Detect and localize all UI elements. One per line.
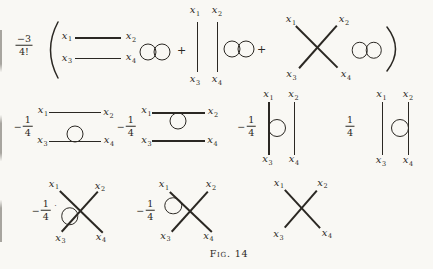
propagator-line [197, 22, 199, 72]
tadpole-loop [268, 119, 286, 137]
coefficient-minus-quarter: − 14 [237, 115, 256, 138]
vertex-label-x1: x1 [376, 89, 386, 101]
vertex-label-x2: x2 [403, 89, 413, 101]
vertex-label-x4: x4 [212, 74, 222, 86]
tadpole-loop [67, 126, 84, 143]
vertex-label-x3: x3 [262, 154, 272, 166]
coefficient-minus-quarter: − 14 [136, 199, 155, 222]
vertex-label-x2: x2 [208, 106, 218, 118]
vacuum-bubble [365, 42, 382, 59]
vertex-label-x4: x4 [104, 135, 114, 147]
fraction-numerator: −3 [15, 34, 32, 46]
vertex-label-x1: x1 [190, 5, 200, 17]
coefficient-plus-quarter: 14 [345, 115, 354, 138]
vertex-label-x2: x2 [126, 31, 136, 43]
vertex-label-x3: x3 [286, 69, 296, 81]
vertex-label-x1: x1 [159, 179, 169, 191]
vertex-label-x3: x3 [160, 231, 170, 243]
minus-sign: − [117, 121, 125, 131]
vertex-label-x4: x4 [289, 154, 299, 166]
vertex-label-x3: x3 [190, 74, 200, 86]
tadpole-loop [391, 119, 409, 137]
stray-ink-mark: · [54, 202, 57, 210]
propagator-line [49, 112, 101, 114]
vertex-label-x4: x4 [341, 69, 351, 81]
vertex-label-x4: x4 [207, 135, 217, 147]
figure-page: −3 4! x1 x2 x3 x4 + x1 x2 x3 x4 + x1 x2 … [0, 0, 433, 269]
vertex-label-x3: x3 [376, 155, 386, 167]
coefficient-minus3-over-4factorial: −3 4! [15, 34, 32, 57]
vertex-label-x3: x3 [62, 53, 72, 65]
plus-operator: + [177, 45, 186, 56]
vertex-label-x1: x1 [274, 178, 284, 190]
vertex-label-x1: x1 [38, 105, 48, 117]
vertex-label-x3: x3 [55, 233, 65, 245]
vertex-label-x1: x1 [286, 14, 296, 26]
fraction-denominator: 4! [19, 46, 29, 57]
vacuum-bubble [237, 40, 254, 57]
minus-sign: − [14, 121, 22, 131]
propagator-line [217, 22, 219, 72]
vertex-label-x1: x1 [62, 31, 72, 43]
coefficient-minus-quarter: − 14 [32, 199, 51, 222]
vertex-label-x4: x4 [96, 232, 106, 244]
propagator-line [382, 102, 384, 155]
vertex-label-x2: x2 [103, 107, 113, 119]
vertex-label-x4: x4 [322, 228, 332, 240]
caption-label: Fig. [210, 247, 231, 258]
vertex-label-x3: x3 [273, 229, 283, 241]
tadpole-loop [170, 112, 187, 129]
vertex-label-x1: x1 [263, 89, 273, 101]
vertex-label-x2: x2 [317, 178, 327, 190]
vertex-label-x1: x1 [49, 179, 59, 191]
coefficient-minus-quarter: − 14 [117, 115, 136, 138]
open-paren [43, 20, 63, 82]
vertex-label-x1: x1 [141, 105, 151, 117]
vertex-label-x2: x2 [288, 89, 298, 101]
vertex-label-x2: x2 [206, 179, 216, 191]
vertex-label-x4: x4 [403, 155, 413, 167]
vertex-label-x3: x3 [37, 135, 47, 147]
minus-sign: − [136, 205, 144, 215]
close-paren [383, 25, 403, 75]
vacuum-bubble [153, 44, 170, 61]
caption-number: 14 [235, 247, 249, 258]
propagator-line [75, 37, 121, 39]
vertex-label-x4: x4 [203, 231, 213, 243]
tadpole-loop [164, 197, 182, 215]
vertex-label-x3: x3 [141, 135, 151, 147]
vertex-label-x2: x2 [339, 14, 349, 26]
tadpole-loop [61, 207, 79, 225]
coefficient-minus-quarter: − 14 [14, 115, 33, 138]
minus-sign: − [32, 205, 40, 215]
propagator-line [75, 58, 121, 60]
vertex-label-x2: x2 [212, 5, 222, 17]
propagator-line [294, 102, 296, 155]
vertex-label-x4: x4 [126, 52, 136, 64]
scan-artifact [0, 30, 2, 242]
propagator-line [152, 140, 205, 142]
minus-sign: − [237, 121, 245, 131]
figure-caption: Fig. 14 [210, 247, 249, 258]
plus-operator: + [257, 43, 266, 54]
